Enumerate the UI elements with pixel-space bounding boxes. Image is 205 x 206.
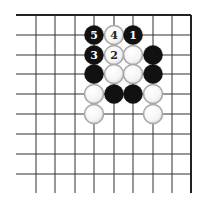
black-stone <box>144 65 163 84</box>
white-stone-move-4: 4 <box>105 26 124 45</box>
white-stone-icon <box>124 65 143 84</box>
white-stone-icon <box>105 65 124 84</box>
black-stone-icon <box>144 65 163 84</box>
stones-layer: 54132 <box>85 26 163 124</box>
white-stone <box>144 105 163 124</box>
black-stone <box>105 85 124 104</box>
move-number-label: 5 <box>90 29 98 42</box>
black-stone-move-5: 5 <box>85 26 104 45</box>
white-stone-move-2: 2 <box>105 46 124 65</box>
white-stone-icon <box>124 46 143 65</box>
black-stone-icon <box>105 85 124 104</box>
black-stone <box>124 85 143 104</box>
move-number-label: 2 <box>110 49 118 62</box>
white-stone-icon <box>144 85 163 104</box>
go-board: 54132 <box>0 0 205 206</box>
white-stone <box>105 65 124 84</box>
black-stone-move-1: 1 <box>124 26 143 45</box>
black-stone <box>85 65 104 84</box>
move-number-label: 1 <box>129 29 137 42</box>
white-stone <box>144 85 163 104</box>
black-stone-icon <box>124 85 143 104</box>
move-number-label: 3 <box>90 49 98 62</box>
white-stone <box>124 46 143 65</box>
move-number-label: 4 <box>110 29 118 42</box>
white-stone <box>85 105 104 124</box>
black-stone <box>144 46 163 65</box>
black-stone-icon <box>85 65 104 84</box>
white-stone-icon <box>144 105 163 124</box>
white-stone <box>85 85 104 104</box>
black-stone-icon <box>144 46 163 65</box>
grid-lines <box>16 15 191 193</box>
white-stone-icon <box>85 105 104 124</box>
white-stone-icon <box>85 85 104 104</box>
black-stone-move-3: 3 <box>85 46 104 65</box>
white-stone <box>124 65 143 84</box>
